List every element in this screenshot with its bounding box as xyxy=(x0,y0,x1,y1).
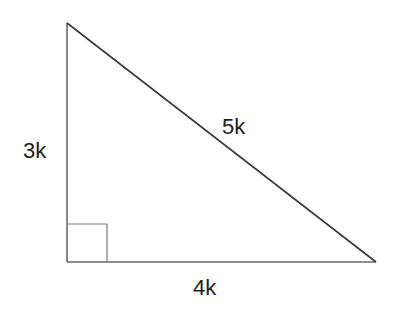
triangle-diagram xyxy=(0,0,400,316)
horizontal-side-label: 4k xyxy=(193,277,216,299)
right-angle-marker xyxy=(67,224,107,262)
hypotenuse xyxy=(67,23,376,262)
vertical-side-label: 3k xyxy=(23,140,46,162)
hypotenuse-label: 5k xyxy=(222,116,245,138)
